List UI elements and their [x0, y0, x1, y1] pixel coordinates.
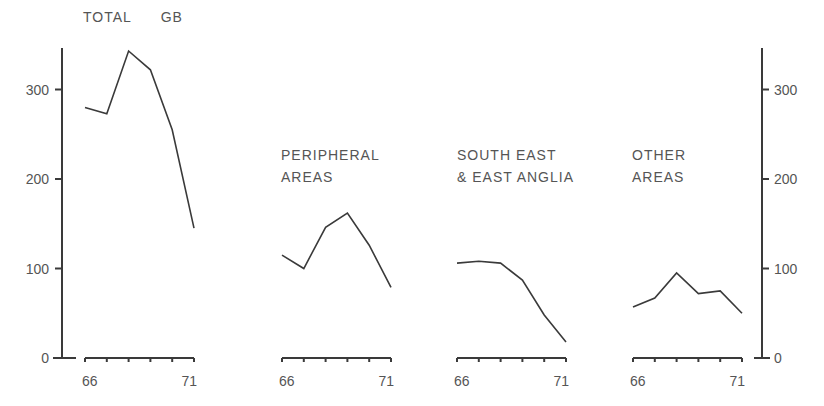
y-tick-label: 200 — [774, 171, 798, 187]
x-tick-label-end: 71 — [181, 373, 197, 389]
panel-title: AREAS — [632, 169, 684, 185]
right-y-axis: 0100200300 — [754, 48, 798, 366]
panel-other-areas: 6671OTHERAREAS — [630, 147, 745, 389]
x-tick-label-end: 71 — [378, 373, 394, 389]
panel-title: OTHER — [632, 147, 686, 163]
x-tick-label-end: 71 — [729, 373, 745, 389]
series-line — [282, 213, 391, 287]
x-tick-label-start: 66 — [454, 373, 470, 389]
left-y-axis: 0100200300 — [26, 48, 76, 366]
y-tick-label: 0 — [41, 350, 49, 366]
panel-south-east-east-anglia: 6671SOUTH EAST& EAST ANGLIA — [454, 147, 574, 389]
panel-total-gb: 6671TOTAL GB — [82, 9, 197, 389]
series-line — [457, 261, 566, 342]
panel-title: TOTAL GB — [83, 9, 183, 25]
y-tick-label: 200 — [26, 171, 50, 187]
series-line — [633, 273, 742, 313]
chart-panels: 6671TOTAL GB6671PERIPHERALAREAS6671SOUTH… — [82, 9, 745, 389]
x-tick-label-end: 71 — [553, 373, 569, 389]
panel-peripheral-areas: 6671PERIPHERALAREAS — [279, 147, 394, 389]
y-tick-label: 100 — [774, 261, 798, 277]
panel-title: PERIPHERAL — [281, 147, 380, 163]
panel-title: & EAST ANGLIA — [457, 169, 574, 185]
panel-title: AREAS — [281, 169, 333, 185]
x-tick-label-start: 66 — [630, 373, 646, 389]
x-tick-label-start: 66 — [82, 373, 98, 389]
y-tick-label: 100 — [26, 261, 50, 277]
panel-title: SOUTH EAST — [457, 147, 556, 163]
series-line — [85, 51, 194, 228]
y-tick-label: 300 — [26, 82, 50, 98]
x-tick-label-start: 66 — [279, 373, 295, 389]
y-tick-label: 0 — [774, 350, 782, 366]
y-tick-label: 300 — [774, 82, 798, 98]
line-chart-panels: 0100200300 0100200300 6671TOTAL GB6671PE… — [0, 0, 824, 406]
